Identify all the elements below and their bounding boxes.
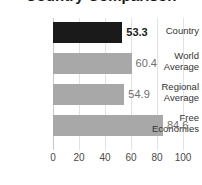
xtick-20: 20	[73, 152, 84, 163]
chart-title: Country Comparison	[0, 0, 202, 4]
xtick-100: 100	[175, 152, 192, 163]
value-label-regional-average: 54.9	[128, 88, 149, 100]
bar-world-average	[53, 53, 132, 74]
xtick-80: 80	[151, 152, 162, 163]
category-label-country: Country	[150, 26, 202, 37]
xtick-0: 0	[50, 152, 56, 163]
bar-free-economies	[53, 115, 163, 136]
value-label-world-average: 60.4	[136, 57, 157, 69]
category-label-regional-average: Regional Average	[150, 82, 202, 103]
category-label-world-average: World Average	[150, 51, 202, 72]
bar-country	[53, 22, 122, 43]
xtick-40: 40	[99, 152, 110, 163]
x-axis: 0 20 40 60 80 100	[0, 152, 202, 172]
bar-regional-average	[53, 84, 124, 105]
value-label-country: 53.3	[126, 26, 147, 38]
xtick-60: 60	[125, 152, 136, 163]
bar-chart: Country Comparison Country World Average…	[0, 0, 202, 185]
value-label-free-economies: 84.6	[167, 119, 188, 131]
